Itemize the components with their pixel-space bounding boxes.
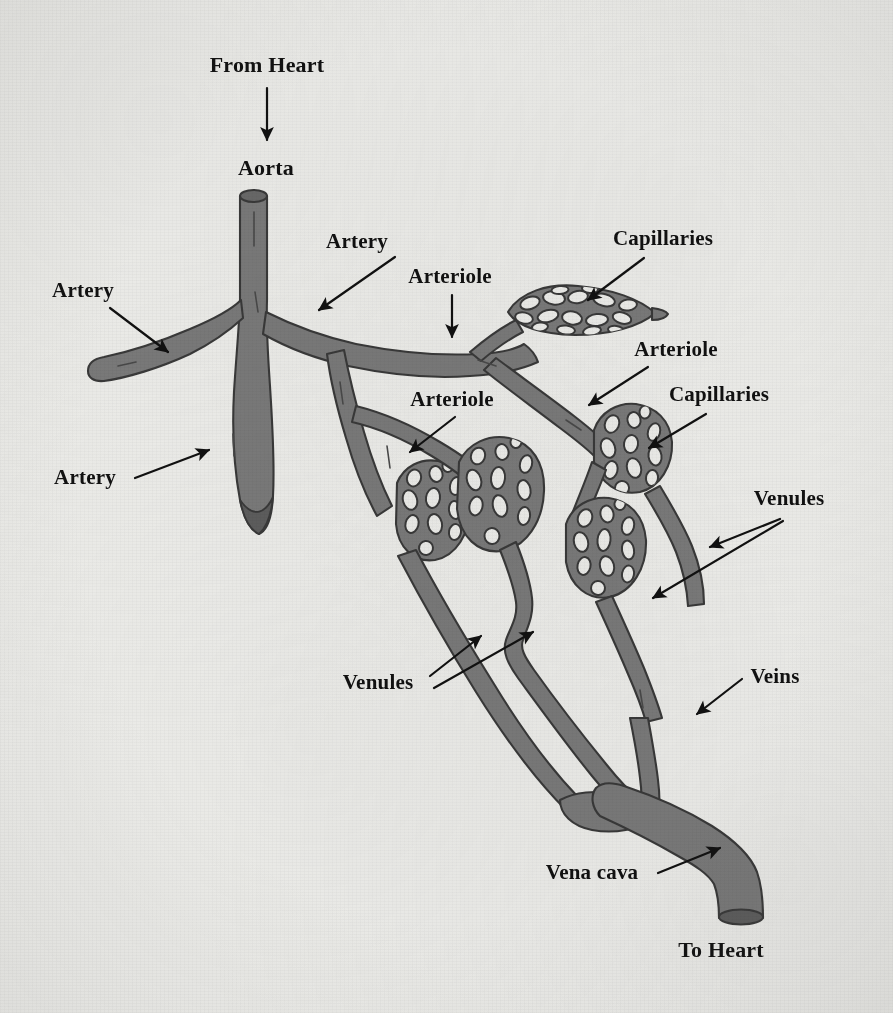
arrow-arteriole-right-icon bbox=[589, 367, 648, 405]
venule-right-lower bbox=[596, 596, 662, 722]
capillary-bed-1 bbox=[508, 284, 655, 337]
vessel-shapes bbox=[88, 190, 763, 925]
artery-left-branch bbox=[88, 300, 243, 381]
label-to-heart: To Heart bbox=[678, 937, 764, 962]
aorta-trunk bbox=[233, 196, 273, 534]
vena-cava-opening bbox=[719, 910, 763, 925]
capillary-outlet-1 bbox=[652, 308, 668, 320]
label-artery-lower: Artery bbox=[54, 465, 116, 489]
vascular-diagram: From Heart Aorta Artery Artery Artery Ar… bbox=[0, 0, 893, 1013]
label-artery-left: Artery bbox=[52, 278, 114, 302]
arrow-artery-left-icon bbox=[110, 308, 168, 352]
label-arteriole-right: Arteriole bbox=[634, 337, 717, 361]
arrow-veins-icon bbox=[697, 679, 742, 714]
label-venules-right: Venules bbox=[754, 486, 825, 510]
vena-cava bbox=[593, 783, 763, 918]
label-artery-top: Artery bbox=[326, 229, 388, 253]
arrow-artery-top-icon bbox=[319, 257, 395, 310]
label-arteriole-top: Arteriole bbox=[408, 264, 491, 288]
label-arteriole-mid: Arteriole bbox=[410, 387, 493, 411]
venule-right-upper bbox=[645, 486, 704, 606]
capillary-bed-2 bbox=[594, 404, 672, 496]
arrow-artery-low-icon bbox=[135, 450, 209, 478]
diagram-canvas: From Heart Aorta Artery Artery Artery Ar… bbox=[0, 0, 893, 1013]
label-from-heart: From Heart bbox=[210, 52, 325, 77]
label-venules-left: Venules bbox=[343, 670, 414, 694]
capillary-bed-5 bbox=[457, 435, 544, 551]
arteriole-left-trunk bbox=[327, 350, 392, 516]
venule-left-long bbox=[398, 550, 578, 810]
label-capillaries-top: Capillaries bbox=[613, 226, 713, 250]
label-aorta: Aorta bbox=[238, 155, 294, 180]
label-vena-cava: Vena cava bbox=[546, 860, 639, 884]
aorta-opening bbox=[240, 190, 267, 202]
capillary-bed-3 bbox=[566, 497, 646, 598]
label-veins: Veins bbox=[750, 664, 799, 688]
label-capillaries-right: Capillaries bbox=[669, 382, 769, 406]
